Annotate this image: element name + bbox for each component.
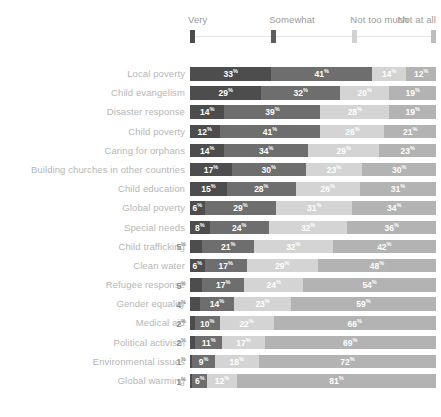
bar-segment: 48% (318, 259, 436, 273)
row-label: Refugee response (5, 279, 185, 290)
bar-segment: 5% (190, 240, 202, 254)
chart-row: Child evangelism29%32%20%19% (0, 85, 441, 104)
bar-segment: 69% (265, 336, 436, 350)
row-label: Special needs (5, 222, 185, 233)
bar-segment: 12% (190, 125, 220, 139)
bar-segment: 19% (389, 105, 436, 119)
bar-segment: 6% (190, 259, 205, 273)
chart-row: Environmental issues1%1%9%18%72% (0, 354, 441, 373)
bar-segment: 14% (190, 144, 224, 158)
bar-segment: 28% (227, 182, 296, 196)
row-label: Global poverty (5, 202, 185, 213)
bar-segment: 34% (352, 201, 436, 215)
bar-segment: 17% (205, 259, 247, 273)
row-bar: 17%30%23%30% (190, 163, 436, 177)
segment-value: 10% (200, 319, 214, 328)
row-bar: 14%34%29%23% (190, 144, 436, 158)
segment-value: 69% (343, 338, 357, 347)
legend-swatch-not-too-much (352, 30, 357, 43)
segment-value: 21% (403, 127, 417, 136)
segment-value: 14% (200, 146, 214, 155)
row-outside-value: 4% (172, 299, 186, 310)
bar-segment: 12% (207, 374, 237, 388)
segment-value: 54% (362, 280, 376, 289)
chart-row: Child poverty12%41%26%21% (0, 124, 441, 143)
segment-value: 29% (218, 88, 232, 97)
row-label: Medical aid (5, 317, 185, 328)
row-bar: 5%21%32%42% (190, 240, 436, 254)
row-bar: 15%28%26%31% (190, 182, 436, 196)
legend-axis-line (190, 36, 436, 37)
bar-segment: 21% (384, 125, 436, 139)
bar-segment: 6% (190, 201, 205, 215)
segment-value: 29% (275, 261, 289, 270)
bar-segment: 26% (296, 182, 360, 196)
bar-segment: 10% (195, 316, 220, 330)
legend-swatch-very (190, 30, 195, 43)
bar-segment: 29% (205, 201, 276, 215)
chart-row: Medical aid2%2%10%22%66% (0, 315, 441, 334)
bar-segment: 17% (202, 278, 244, 292)
bar-segment: 5% (190, 278, 202, 292)
bar-segment: 33% (190, 67, 271, 81)
row-label: Global warming (5, 375, 185, 386)
row-label: Political activism (5, 337, 185, 348)
chart-row: Local poverty33%41%14%12% (0, 66, 441, 85)
chart-row: Building churches in other countries17%3… (0, 162, 441, 181)
segment-value: 12% (198, 127, 212, 136)
bar-segment: 30% (232, 163, 306, 177)
row-bar: 1%6%12%81% (190, 374, 436, 388)
segment-value: 36% (385, 223, 399, 232)
row-bar: 1%9%18%72% (190, 355, 436, 369)
row-bar: 4%14%23%59% (190, 297, 436, 311)
chart-legend: VerySomewhatNot too muchNot at all (190, 14, 436, 56)
bar-segment: 41% (271, 67, 372, 81)
legend-swatch-not-at-all (431, 30, 436, 43)
segment-value: 28% (254, 184, 268, 193)
segment-value: 6% (195, 376, 205, 385)
bar-segment: 23% (234, 297, 291, 311)
chart-row: Child trafficking5%5%21%32%42% (0, 239, 441, 258)
bar-segment: 26% (320, 125, 384, 139)
legend-label-somewhat: Somewhat (269, 14, 315, 25)
row-label: Gender equality (5, 298, 185, 309)
segment-value: 22% (239, 319, 253, 328)
segment-value: 11% (202, 338, 216, 347)
segment-value: 41% (263, 127, 277, 136)
segment-value: 23% (327, 165, 341, 174)
bar-segment: 81% (237, 374, 436, 388)
bar-segment: 14% (190, 105, 224, 119)
row-label: Disaster response (5, 106, 185, 117)
row-label: Caring for orphans (5, 145, 185, 156)
stacked-bar-chart: VerySomewhatNot too muchNot at all Local… (0, 0, 441, 417)
segment-value: 14% (382, 69, 396, 78)
chart-row: Global poverty6%29%31%34% (0, 200, 441, 219)
segment-value: 42% (377, 242, 391, 251)
row-label: Local poverty (5, 68, 185, 79)
bar-segment: 36% (347, 221, 436, 235)
row-label: Clean water (5, 260, 185, 271)
bar-segment: 14% (372, 67, 406, 81)
bar-segment: 42% (333, 240, 436, 254)
chart-row: Special needs8%24%32%36% (0, 220, 441, 239)
bar-segment: 34% (224, 144, 308, 158)
bar-segment: 32% (261, 86, 340, 100)
bar-segment: 17% (222, 336, 264, 350)
bar-segment: 18% (215, 355, 259, 369)
segment-value: 66% (348, 319, 362, 328)
bar-segment: 21% (202, 240, 254, 254)
row-bar: 5%17%24%54% (190, 278, 436, 292)
segment-value: 33% (223, 69, 237, 78)
segment-value: 34% (259, 146, 273, 155)
bar-segment: 66% (274, 316, 436, 330)
chart-rows: Local poverty33%41%14%12%Child evangelis… (0, 66, 441, 392)
bar-segment: 31% (360, 182, 436, 196)
row-bar: 29%32%20%19% (190, 86, 436, 100)
segment-value: 17% (204, 165, 218, 174)
bar-segment: 8% (190, 221, 210, 235)
bar-segment: 28% (320, 105, 389, 119)
row-label: Building churches in other countries (5, 164, 185, 175)
legend-labels: VerySomewhatNot too muchNot at all (190, 14, 436, 30)
row-outside-value: 5% (172, 280, 186, 291)
chart-row: Gender equality4%4%14%23%59% (0, 296, 441, 315)
